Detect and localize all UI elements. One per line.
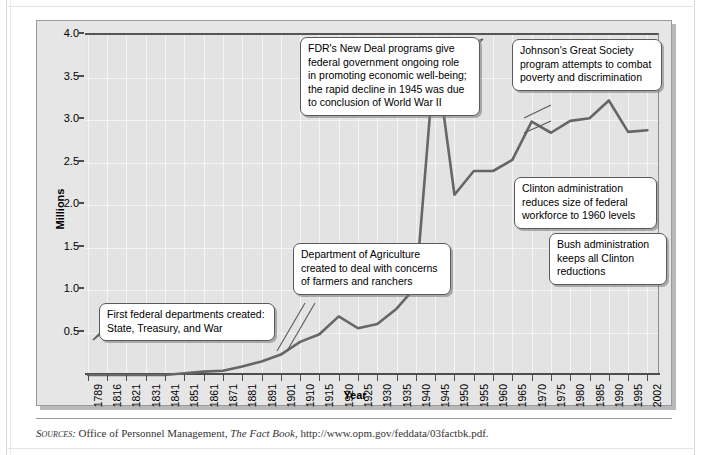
y-axis-tick-mark bbox=[78, 287, 84, 289]
page-rule-top bbox=[6, 6, 695, 7]
y-axis-tick-mark bbox=[78, 160, 84, 162]
annotation-dept-agriculture: Department of Agriculture created to dea… bbox=[293, 243, 451, 295]
annotation-line: the rapid decline in 1945 was due bbox=[308, 83, 472, 97]
x-axis-tick-mark bbox=[416, 375, 417, 381]
annotation-line: created to deal with concerns bbox=[301, 262, 443, 276]
y-axis-tick-mark bbox=[78, 202, 84, 204]
y-axis-tick-label: 3.5 bbox=[49, 70, 79, 82]
x-axis-tick-mark bbox=[570, 375, 571, 381]
annotation-line: in promoting economic well-being; bbox=[308, 69, 472, 83]
page-rule-bottom bbox=[6, 448, 695, 449]
chart-frame: 0.51.01.52.02.53.03.54.0 Millions 178918… bbox=[36, 20, 672, 406]
source-url: , http://www.opm.gov/feddata/03factbk.pd… bbox=[295, 427, 489, 439]
annotation-line: of farmers and ranchers bbox=[301, 275, 443, 289]
x-axis-tick-mark bbox=[532, 375, 533, 381]
annotation-first-departments: First federal departments created: State… bbox=[99, 303, 275, 341]
annotation-bush-keeps: Bush administration keeps all Clinton re… bbox=[549, 233, 667, 285]
annotation-great-society: Johnson's Great Society program attempts… bbox=[512, 39, 662, 91]
figure-page: 0.51.01.52.02.53.03.54.0 Millions 178918… bbox=[0, 0, 701, 455]
y-axis-tick-label: 4.0 bbox=[49, 27, 79, 39]
x-axis-tick-mark bbox=[262, 375, 263, 381]
y-axis-tick-mark bbox=[78, 32, 84, 34]
x-axis-tick-mark bbox=[474, 375, 475, 381]
x-axis-tick-mark bbox=[551, 375, 552, 381]
x-axis-tick-mark bbox=[628, 375, 629, 381]
y-axis-tick-mark bbox=[78, 245, 84, 247]
y-axis-tick-label: 3.0 bbox=[49, 112, 79, 124]
annotation-line: reduces size of federal bbox=[522, 196, 649, 210]
x-axis-tick-mark bbox=[300, 375, 301, 381]
y-axis-tick-mark bbox=[78, 330, 84, 332]
annotation-clinton-reduction: Clinton administration reduces size of f… bbox=[514, 177, 657, 229]
x-axis-tick-mark bbox=[281, 375, 282, 381]
annotation-line: State, Treasury, and War bbox=[107, 322, 267, 336]
x-axis-tick-mark bbox=[242, 375, 243, 381]
annotation-fdr-new-deal: FDR's New Deal programs give federal gov… bbox=[300, 37, 480, 116]
source-note: Sources: Office of Personnel Management,… bbox=[36, 427, 672, 439]
x-axis-tick-mark bbox=[339, 375, 340, 381]
x-axis-tick-mark bbox=[184, 375, 185, 381]
source-label: Sources: bbox=[36, 427, 76, 439]
annotation-line: FDR's New Deal programs give bbox=[308, 42, 472, 56]
annotation-line: federal government ongoing role bbox=[308, 56, 472, 70]
x-axis-tick-mark bbox=[590, 375, 591, 381]
page-rule-left-secondary bbox=[10, 0, 11, 455]
y-axis-title: Millions bbox=[54, 164, 66, 254]
annotation-line: First federal departments created: bbox=[107, 308, 267, 322]
x-axis-tick-mark bbox=[146, 375, 147, 381]
x-axis-tick-mark bbox=[512, 375, 513, 381]
x-axis-tick-mark bbox=[493, 375, 494, 381]
annotation-line: poverty and discrimination bbox=[520, 71, 654, 85]
x-axis-tick-mark bbox=[454, 375, 455, 381]
x-axis-tick-mark bbox=[223, 375, 224, 381]
x-axis-tick-mark bbox=[319, 375, 320, 381]
source-publisher: Office of Personnel Management, bbox=[76, 427, 230, 439]
y-axis-tick-label: 1.0 bbox=[49, 282, 79, 294]
x-axis-tick-mark bbox=[377, 375, 378, 381]
annotation-line: Clinton administration bbox=[522, 182, 649, 196]
annotation-line: Johnson's Great Society bbox=[520, 44, 654, 58]
x-axis-tick-mark bbox=[397, 375, 398, 381]
x-axis-tick-mark bbox=[107, 375, 108, 381]
annotation-line: keeps all Clinton bbox=[557, 252, 659, 266]
y-axis-tick-mark bbox=[78, 75, 84, 77]
annotation-line: reductions bbox=[557, 265, 659, 279]
page-rule-left bbox=[6, 0, 7, 455]
chart-figure: 0.51.01.52.02.53.03.54.0 Millions 178918… bbox=[36, 20, 672, 406]
x-axis-tick-mark bbox=[88, 375, 89, 381]
x-axis-tick-mark bbox=[609, 375, 610, 381]
annotation-line: program attempts to combat bbox=[520, 58, 654, 72]
annotation-line: to conclusion of World War II bbox=[308, 96, 472, 110]
x-axis-title: Year bbox=[37, 389, 673, 401]
x-axis-tick-mark bbox=[358, 375, 359, 381]
source-divider bbox=[36, 418, 672, 419]
x-axis-tick-mark bbox=[126, 375, 127, 381]
page-rule-right bbox=[694, 0, 695, 455]
x-axis-tick-mark bbox=[647, 375, 648, 381]
x-axis-tick-mark bbox=[204, 375, 205, 381]
y-axis-tick-mark bbox=[78, 117, 84, 119]
source-title: The Fact Book bbox=[230, 427, 295, 439]
annotation-line: Bush administration bbox=[557, 238, 659, 252]
x-axis-tick-mark bbox=[435, 375, 436, 381]
x-axis-tick-mark bbox=[165, 375, 166, 381]
y-axis-tick-label: 0.5 bbox=[49, 325, 79, 337]
annotation-line: workforce to 1960 levels bbox=[522, 209, 649, 223]
annotation-line: Department of Agriculture bbox=[301, 248, 443, 262]
